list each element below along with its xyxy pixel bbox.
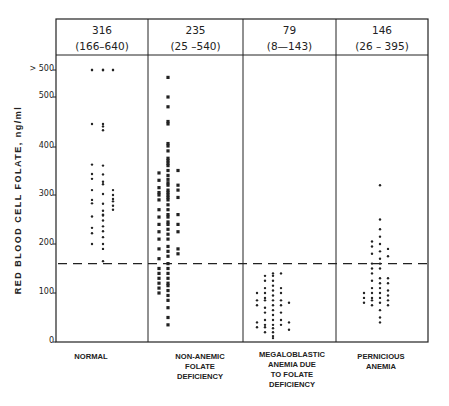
data-point-square xyxy=(166,272,169,275)
data-point-dot xyxy=(280,272,282,274)
data-point-dot xyxy=(102,125,104,127)
data-point-dot xyxy=(379,184,381,186)
data-point-dot xyxy=(387,248,389,250)
y-tick-label: 0 xyxy=(49,336,54,345)
data-point-dot xyxy=(112,205,114,207)
data-point-square xyxy=(157,215,160,218)
data-point-dot xyxy=(280,319,282,321)
data-point-square xyxy=(176,223,179,226)
data-point-dot xyxy=(256,326,258,328)
data-point-dot xyxy=(264,292,266,294)
data-point-dot xyxy=(387,255,389,257)
category-label-megaloblastic: MEGALOBLASTIC ANEMIA DUE TO FOLATE DEFIC… xyxy=(244,350,340,390)
data-point-square xyxy=(166,262,169,265)
data-point-square xyxy=(166,203,169,206)
header-range: (166–640) xyxy=(56,38,148,54)
data-point-square xyxy=(166,233,169,236)
data-point-dot xyxy=(272,289,274,291)
data-point-dot xyxy=(379,228,381,230)
data-point-dot xyxy=(102,203,104,205)
data-point-dot xyxy=(91,199,93,201)
data-point-dot xyxy=(379,218,381,220)
data-point-dot xyxy=(272,280,274,282)
data-point-square xyxy=(157,247,160,250)
data-point-square xyxy=(176,184,179,187)
data-point-dot xyxy=(379,309,381,311)
data-point-square xyxy=(166,306,169,309)
data-point-dot xyxy=(379,250,381,252)
data-point-square xyxy=(176,213,179,216)
data-point-dot xyxy=(387,304,389,306)
data-point-dot xyxy=(102,173,104,175)
data-point-dot xyxy=(91,178,93,180)
data-point-square xyxy=(166,223,169,226)
data-point-dot xyxy=(91,69,93,71)
y-tick-label: 500 xyxy=(39,91,54,100)
data-point-square xyxy=(157,208,160,211)
data-point-dot xyxy=(371,297,373,299)
data-point-dot xyxy=(387,299,389,301)
data-point-dot xyxy=(371,292,373,294)
data-point-dot xyxy=(379,321,381,323)
data-point-dot xyxy=(256,292,258,294)
data-point-square xyxy=(166,174,169,177)
data-point-square xyxy=(166,184,169,187)
data-point-square xyxy=(157,257,160,260)
data-point-dot xyxy=(91,189,93,191)
data-point-dot xyxy=(371,299,373,301)
data-point-dot xyxy=(102,243,104,245)
data-point-dot xyxy=(363,297,365,299)
data-point-dot xyxy=(379,243,381,245)
data-point-dot xyxy=(102,214,104,216)
data-point-dot xyxy=(264,275,266,277)
data-point-square xyxy=(157,282,160,285)
data-point-dot xyxy=(256,299,258,301)
data-point-dot xyxy=(264,299,266,301)
y-tick-label: 100 xyxy=(39,287,54,296)
data-point-dot xyxy=(102,225,104,227)
data-point-dot xyxy=(264,311,266,313)
data-point-dot xyxy=(272,314,274,316)
data-point-dot xyxy=(102,230,104,232)
data-point-square xyxy=(166,316,169,319)
data-point-dot xyxy=(371,267,373,269)
data-point-dot xyxy=(112,69,114,71)
y-axis-label: RED BLOOD CELL FOLATE, ng/ml xyxy=(13,106,23,295)
data-point-dot xyxy=(102,129,104,131)
category-label-non-anemic: NON-ANEMIC FOLATE DEFICIENCY xyxy=(155,352,245,382)
data-point-square xyxy=(166,323,169,326)
data-point-dot xyxy=(379,267,381,269)
data-point-square xyxy=(166,294,169,297)
data-point-square xyxy=(166,250,169,253)
header-range: (26 – 395) xyxy=(336,38,428,54)
data-point-dot xyxy=(371,304,373,306)
data-point-dot xyxy=(371,245,373,247)
data-point-dot xyxy=(264,326,266,328)
data-point-square xyxy=(166,208,169,211)
data-point-square xyxy=(166,267,169,270)
data-point-dot xyxy=(280,287,282,289)
data-point-dot xyxy=(102,248,104,250)
data-point-dot xyxy=(264,331,266,333)
data-point-square xyxy=(166,178,169,181)
data-point-dot xyxy=(102,219,104,221)
data-point-square xyxy=(176,189,179,192)
data-point-square xyxy=(166,228,169,231)
data-point-dot xyxy=(379,235,381,237)
data-point-square xyxy=(157,272,160,275)
data-point-dot xyxy=(280,324,282,326)
data-point-square xyxy=(176,169,179,172)
data-point-dot xyxy=(387,277,389,279)
data-point-square xyxy=(157,238,160,241)
data-point-dot xyxy=(272,284,274,286)
data-point-dot xyxy=(272,319,274,321)
data-point-dot xyxy=(102,236,104,238)
data-point-square xyxy=(157,287,160,290)
data-point-dot xyxy=(112,198,114,200)
data-point-dot xyxy=(272,327,274,329)
data-point-dot xyxy=(288,329,290,331)
y-axis-ticks: > 500 500 400 300 200 100 0 xyxy=(0,0,54,406)
data-point-square xyxy=(166,105,169,108)
data-point-dot xyxy=(102,181,104,183)
data-point-dot xyxy=(112,200,114,202)
